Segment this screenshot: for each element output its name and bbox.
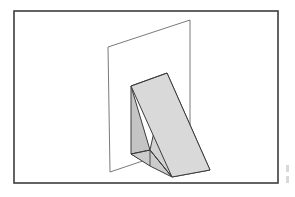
figure-container <box>0 0 295 197</box>
scan-artifact-mark-2 <box>286 176 289 183</box>
geometry-illustration <box>0 0 295 197</box>
scan-artifact-mark-1 <box>286 165 289 172</box>
